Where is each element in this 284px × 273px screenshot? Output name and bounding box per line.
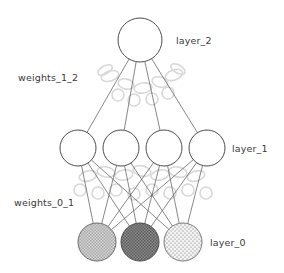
weights-1-2-label: weights_1_2 — [18, 73, 78, 83]
neuron-node-layer-0[interactable] — [121, 223, 159, 261]
neuron-node-layer-1[interactable] — [189, 130, 225, 166]
watermark-shape — [78, 169, 98, 183]
connection-edge — [88, 163, 130, 226]
node-group-layer-0 — [78, 223, 202, 261]
watermark-shape — [96, 63, 114, 78]
layer-1-label: layer_1 — [232, 144, 268, 154]
watermark-shape — [74, 184, 86, 196]
connection-edge — [87, 59, 129, 132]
connection-edge — [168, 166, 180, 224]
watermark-shape — [150, 168, 170, 182]
watermark-shape — [132, 164, 152, 178]
connection-edge — [124, 62, 136, 131]
neuron-node-layer-0[interactable] — [164, 223, 202, 261]
watermark-shape — [128, 94, 140, 106]
watermark-shape — [162, 87, 174, 99]
weights-0-1-label: weights_0_1 — [14, 198, 74, 208]
neuron-node-layer-0[interactable] — [78, 223, 116, 261]
neuron-node-layer-2[interactable] — [118, 18, 162, 62]
network-graphic — [0, 0, 284, 273]
neuron-node-layer-1[interactable] — [146, 130, 182, 166]
connection-edge — [131, 163, 173, 226]
watermark-shape — [114, 169, 133, 182]
neural-network-diagram: layer_2 layer_1 layer_0 weights_1_2 weig… — [0, 0, 284, 273]
layer-2-label: layer_2 — [176, 36, 212, 46]
neuron-node-layer-1[interactable] — [103, 130, 139, 166]
watermark-shape — [96, 166, 115, 179]
neuron-node-layer-1[interactable] — [60, 130, 96, 166]
watermark-shape — [112, 89, 124, 101]
watermark-shape — [92, 187, 104, 199]
node-group-layer-1 — [60, 130, 225, 166]
watermark-shape — [182, 184, 194, 196]
layer-0-label: layer_0 — [210, 238, 246, 248]
watermark-shape — [186, 169, 206, 184]
watermark-decoration — [74, 62, 212, 200]
watermark-shape — [200, 187, 212, 199]
node-group-layer-2 — [118, 18, 162, 62]
